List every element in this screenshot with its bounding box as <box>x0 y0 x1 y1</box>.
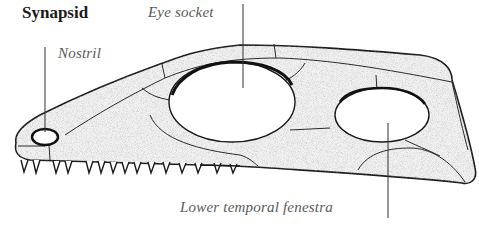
skull-illustration <box>0 0 479 238</box>
lower-temporal-fenestra-opening <box>335 88 429 142</box>
eye-socket-opening <box>169 62 295 142</box>
